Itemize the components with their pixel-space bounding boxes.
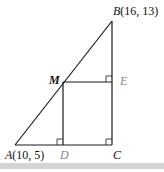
right-angle-marker-c xyxy=(106,139,112,145)
right-angle-marker-e xyxy=(106,76,112,82)
label-c: C xyxy=(113,148,122,162)
right-angle-marker-d xyxy=(57,139,63,145)
triangle-diagram: B(16, 13) M E A(10, 5) D C xyxy=(0,0,164,172)
label-m: M xyxy=(48,73,60,87)
label-d: D xyxy=(59,148,69,162)
bottom-divider-bar xyxy=(0,163,164,169)
label-b: B(16, 13) xyxy=(113,4,158,18)
label-e: E xyxy=(119,74,128,88)
label-a: A(10, 5) xyxy=(4,148,44,162)
